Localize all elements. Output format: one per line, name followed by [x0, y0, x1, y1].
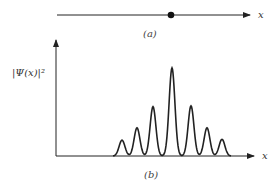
caption-a: (a): [143, 28, 157, 39]
panel-a: x (a): [57, 9, 264, 39]
x-axis-label-b: x: [262, 150, 268, 161]
x-axis-label-a: x: [258, 9, 264, 20]
caption-b: (b): [144, 169, 158, 180]
y-axis-label: |Ψ(x)|²: [12, 67, 45, 79]
particle-dot: [168, 12, 175, 19]
panel-b: |Ψ(x)|² x (b): [12, 40, 268, 180]
probability-density-curve: [113, 68, 231, 156]
diagram-canvas: x (a) |Ψ(x)|² x (b): [0, 0, 279, 191]
